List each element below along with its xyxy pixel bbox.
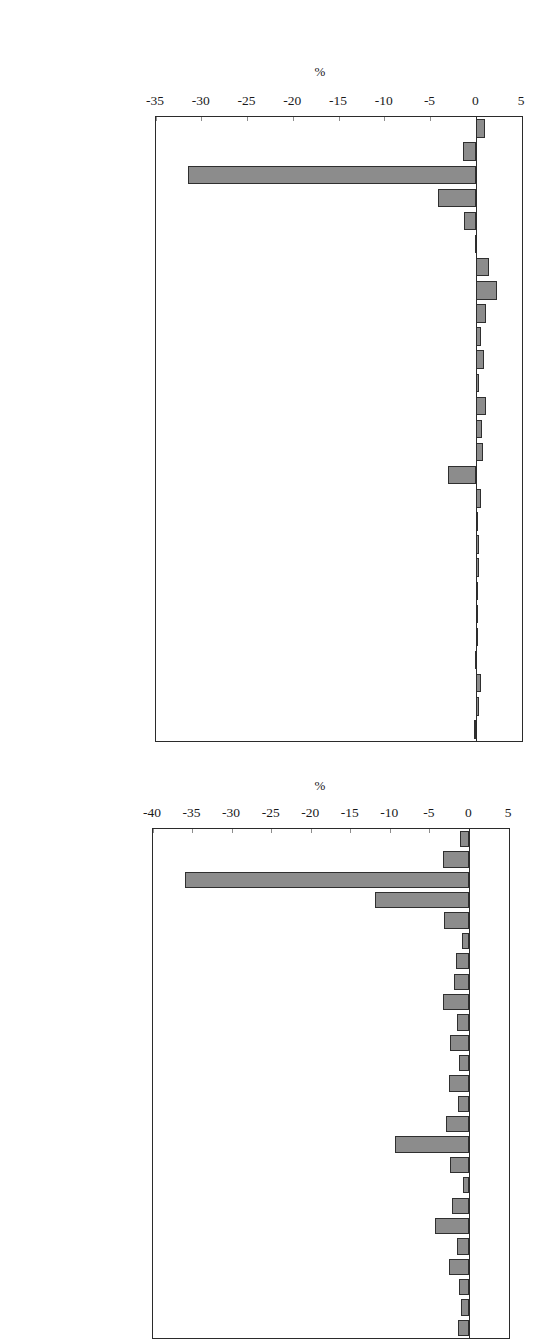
x-tick-label: -20 <box>301 805 319 821</box>
x-tick-label: -20 <box>283 93 301 109</box>
bar <box>435 1218 469 1234</box>
bar <box>476 281 497 299</box>
chart-bottom-tick-labels: -40-35-30-25-20-15-10-505 <box>0 805 538 823</box>
x-tick-mark <box>271 829 272 833</box>
x-tick-mark <box>429 829 430 833</box>
bar <box>476 304 486 322</box>
x-tick-mark <box>192 829 193 833</box>
bar <box>443 851 470 867</box>
bar <box>456 953 469 969</box>
chart-top-plot-area <box>155 116 523 742</box>
bar <box>457 1238 470 1254</box>
x-tick-label: 0 <box>472 93 479 109</box>
bar <box>464 212 476 230</box>
bar <box>476 397 486 415</box>
x-tick-mark <box>156 117 157 121</box>
x-tick-label: -5 <box>423 805 434 821</box>
bar <box>476 327 481 345</box>
x-tick-mark <box>509 829 510 833</box>
x-tick-label: 5 <box>518 93 525 109</box>
x-tick-label: 5 <box>505 805 512 821</box>
bar <box>476 674 481 692</box>
bar <box>454 974 470 990</box>
bar <box>450 1157 469 1173</box>
chart-bottom-figure: % -40-35-30-25-20-15-10-505 AgricultureM… <box>0 760 538 1339</box>
bar <box>438 189 476 207</box>
chart-top-x-unit-label: % <box>305 64 335 80</box>
bar <box>188 166 476 184</box>
bar <box>458 1320 470 1336</box>
x-tick-label: -10 <box>375 93 393 109</box>
chart-bottom-plot-area <box>152 828 510 1339</box>
bar <box>452 1198 469 1214</box>
chart-top-tick-labels: -35-30-25-20-15-10-505 <box>0 93 538 111</box>
x-tick-mark <box>390 829 391 833</box>
bar <box>446 1116 470 1132</box>
x-tick-mark <box>201 117 202 121</box>
x-tick-label: -25 <box>262 805 280 821</box>
bar <box>476 119 485 137</box>
x-tick-mark <box>311 829 312 833</box>
x-tick-label: -40 <box>143 805 161 821</box>
bar <box>449 1075 470 1091</box>
chart-top-figure: % -35-30-25-20-15-10-505 AgricultureMeta… <box>0 0 538 760</box>
bar <box>448 466 476 484</box>
bar <box>476 443 483 461</box>
bar <box>444 912 469 928</box>
chart-bottom-x-unit-label: % <box>305 778 335 794</box>
bar <box>375 892 470 908</box>
x-tick-label: -35 <box>146 93 164 109</box>
bar <box>476 489 481 507</box>
bar <box>476 258 489 276</box>
x-tick-mark <box>350 829 351 833</box>
x-tick-label: -30 <box>222 805 240 821</box>
x-tick-label: -35 <box>183 805 201 821</box>
x-tick-mark <box>339 117 340 121</box>
bar <box>450 1035 470 1051</box>
x-tick-mark <box>153 829 154 833</box>
bar <box>476 350 484 368</box>
x-tick-mark <box>430 117 431 121</box>
x-tick-label: -30 <box>192 93 210 109</box>
x-tick-mark <box>247 117 248 121</box>
bar <box>395 1136 469 1152</box>
x-tick-label: -10 <box>380 805 398 821</box>
zero-axis-line <box>476 117 477 741</box>
x-tick-label: -25 <box>238 93 256 109</box>
bar <box>457 1014 470 1030</box>
bar <box>443 994 469 1010</box>
x-tick-label: -15 <box>341 805 359 821</box>
bar <box>476 420 481 438</box>
bar <box>459 1055 469 1071</box>
x-tick-label: -15 <box>329 93 347 109</box>
x-tick-mark <box>232 829 233 833</box>
x-tick-mark <box>522 117 523 121</box>
bar <box>458 1096 470 1112</box>
bar <box>449 1259 470 1275</box>
zero-axis-line <box>469 829 470 1338</box>
x-tick-label: -5 <box>424 93 435 109</box>
x-tick-label: 0 <box>465 805 472 821</box>
bar <box>459 1279 469 1295</box>
x-tick-mark <box>384 117 385 121</box>
x-tick-mark <box>293 117 294 121</box>
bar <box>463 142 476 160</box>
bar <box>185 872 470 888</box>
